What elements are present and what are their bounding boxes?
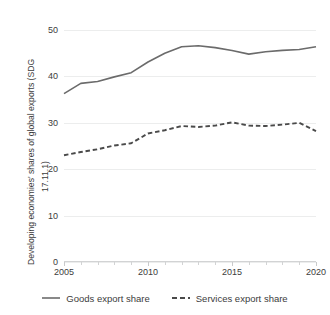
- x-tick-mark-2006: [81, 262, 82, 265]
- y-tick-label-40: 40: [32, 72, 58, 81]
- x-tick-mark-2005: [64, 262, 65, 266]
- legend-item-services[interactable]: Services export share: [172, 293, 288, 304]
- chart-figure: Developing economies' shares of global e…: [0, 0, 330, 315]
- chart-legend: Goods export share Services export share: [0, 288, 330, 308]
- x-tick-mark-2018: [282, 262, 283, 265]
- x-tick-mark-2016: [249, 262, 250, 265]
- legend-label-services: Services export share: [196, 293, 288, 304]
- x-tick-mark-2015: [232, 262, 233, 266]
- series-lines: [64, 30, 316, 262]
- y-axis-title: Developing economies' shares of global e…: [0, 0, 52, 272]
- dashed-line-icon: [172, 293, 190, 303]
- y-tick-label-10: 10: [32, 212, 58, 221]
- x-tick-mark-2010: [148, 262, 149, 266]
- x-tick-label-2015: 2015: [222, 267, 242, 277]
- series-line-goods: [64, 46, 316, 94]
- x-tick-mark-2012: [182, 262, 183, 265]
- x-tick-label-2010: 2010: [138, 267, 158, 277]
- y-tick-label-30: 30: [32, 119, 58, 128]
- x-tick-mark-2019: [299, 262, 300, 265]
- x-tick-mark-2007: [98, 262, 99, 265]
- x-axis-ticks: 2005201020152020: [64, 262, 316, 284]
- y-tick-label-20: 20: [32, 165, 58, 174]
- x-tick-mark-2017: [266, 262, 267, 265]
- solid-line-icon: [42, 293, 60, 303]
- plot-area: [64, 30, 316, 262]
- x-tick-label-2020: 2020: [306, 267, 326, 277]
- x-tick-label-2005: 2005: [54, 267, 74, 277]
- legend-item-goods[interactable]: Goods export share: [42, 293, 149, 304]
- x-tick-mark-2009: [131, 262, 132, 265]
- x-tick-mark-2008: [114, 262, 115, 265]
- series-line-services: [64, 122, 316, 155]
- x-tick-mark-2011: [165, 262, 166, 265]
- x-tick-mark-2013: [198, 262, 199, 265]
- y-tick-label-0: 0: [32, 258, 58, 267]
- x-tick-mark-2020: [316, 262, 317, 266]
- y-axis-title-line-1: Developing economies' shares of global e…: [26, 59, 36, 265]
- legend-label-goods: Goods export share: [66, 293, 149, 304]
- x-tick-mark-2014: [215, 262, 216, 265]
- y-tick-label-50: 50: [32, 26, 58, 35]
